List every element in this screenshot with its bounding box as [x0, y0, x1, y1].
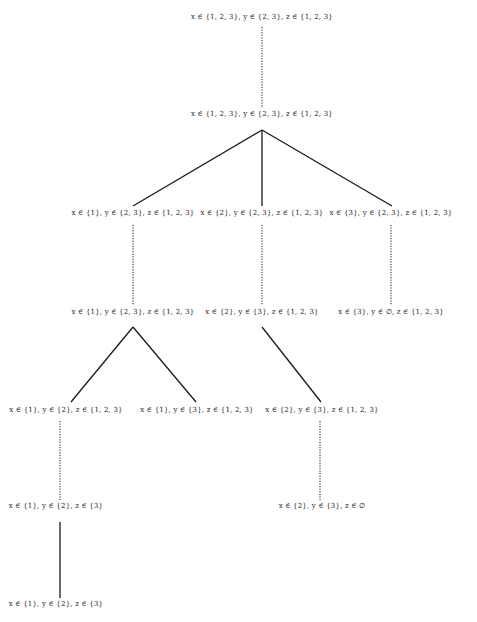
- tree-node-n5: x ∈ {1}, y ∈ {2, 3}, z ∈ {1, 2, 3}: [72, 308, 195, 317]
- tree-node-n10: x ∈ {2}, y ∈ {3}, z ∈ {1, 2, 3}: [265, 406, 378, 415]
- tree-node-n4: x ∈ {3}, y ∈ {2, 3}, z ∈ {1, 2, 3}: [330, 209, 453, 218]
- edge-n5-n9-solid: [133, 327, 196, 402]
- edge-n6-n10-solid: [262, 327, 321, 402]
- tree-node-n2: x ∈ {1}, y ∈ {2, 3}, z ∈ {1, 2, 3}: [72, 209, 195, 218]
- tree-node-n8: x ∈ {1}, y ∈ {2}, z ∈ {1, 2, 3}: [9, 406, 122, 415]
- tree-node-n11: x ∈ {1}, y ∈ {2}, z ∈ {3}: [9, 502, 103, 511]
- edge-n1-n4-solid: [262, 130, 392, 206]
- tree-node-n0: x ∈ {1, 2, 3}, y ∈ {2, 3}, z ∈ {1, 2, 3}: [191, 13, 333, 22]
- edge-n5-n8-solid: [71, 327, 133, 402]
- tree-node-n3: x ∈ {2}, y ∈ {2, 3}, z ∈ {1, 2, 3}: [201, 209, 324, 218]
- tree-node-n13: x ∈ {1}, y ∈ {2}, z ∈ {3}: [9, 600, 103, 609]
- tree-node-n1: x ∈ {1, 2, 3}, y ∈ {2, 3}, z ∈ {1, 2, 3}: [191, 110, 333, 119]
- tree-node-n7: x ∈ {3}, y ∈ ∅, z ∈ {1, 2, 3}: [338, 308, 444, 317]
- tree-node-n6: x ∈ {2}, y ∈ {3}, z ∈ {1, 2, 3}: [205, 308, 318, 317]
- edge-n1-n2-solid: [133, 130, 262, 206]
- tree-node-n9: x ∈ {1}, y ∈ {3}, z ∈ {1, 2, 3}: [140, 406, 253, 415]
- tree-node-n12: x ∈ {2}, y ∈ {3}, z ∈ ∅: [279, 502, 366, 511]
